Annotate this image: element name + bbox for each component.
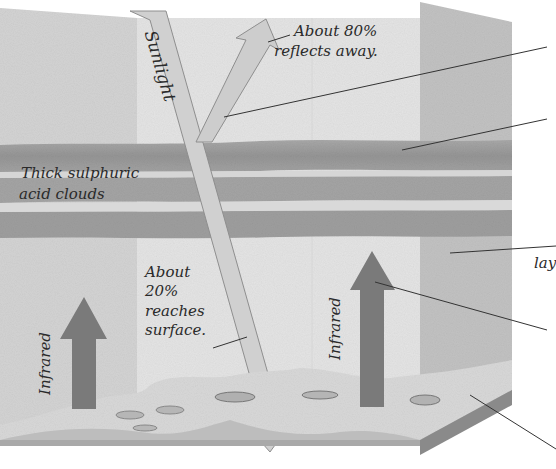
venus-atmosphere-diagram: Sunlight About 80% reflects away. Thick …: [0, 0, 556, 469]
cut-off-label: lay: [534, 255, 556, 272]
clouds-label-line2: acid clouds: [19, 186, 105, 203]
surface-label-line4: surface.: [145, 322, 206, 339]
surface-label-line1: About: [145, 264, 190, 281]
clouds-label-line1: Thick sulphuric: [21, 165, 139, 182]
infrared-label-left: Infrared: [36, 332, 54, 395]
infrared-label-right: Infrared: [326, 297, 344, 360]
reflect-label-line2: reflects away.: [274, 43, 378, 60]
diagram-graphics: [0, 0, 556, 469]
surface-label-line3: reaches: [145, 303, 205, 320]
surface-label-line2: 20%: [145, 283, 178, 300]
reflect-label-line1: About 80%: [294, 23, 377, 40]
